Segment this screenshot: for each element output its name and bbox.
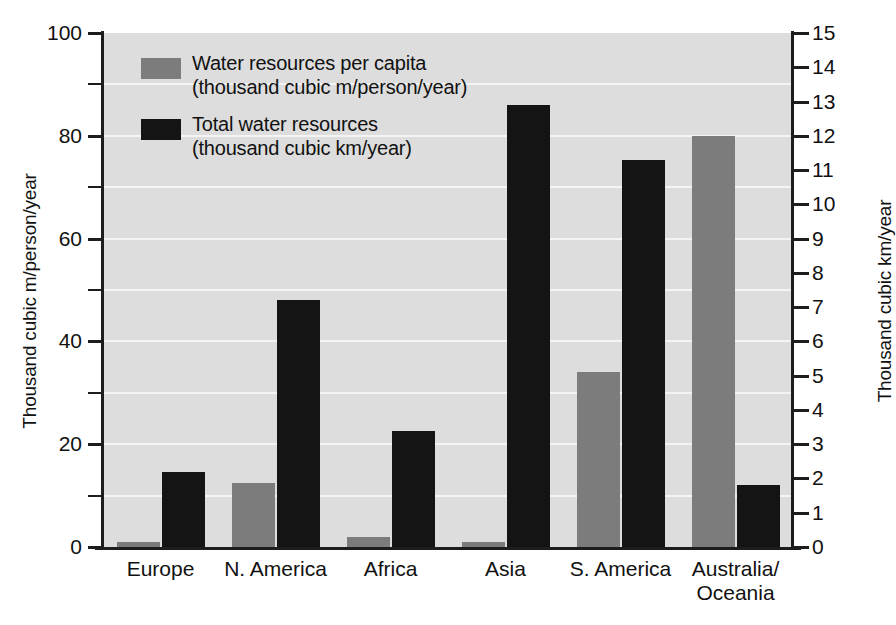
legend: Water resources per capita (thousand cub…: [141, 52, 561, 174]
gridline: [103, 443, 793, 445]
y-axis-left-tick: [88, 32, 103, 35]
y-axis-left-tick: [88, 238, 103, 241]
y-axis-right-tick-label: 0: [812, 536, 872, 557]
y-axis-left-tick: [88, 289, 101, 291]
y-axis-right-tick-label: 2: [812, 467, 872, 488]
y-axis-left-tick-label: 20: [0, 433, 82, 454]
y-axis-right-tick-label: 14: [812, 56, 872, 77]
y-axis-right-tick-label: 15: [812, 22, 872, 43]
y-axis-right-tick-label: 7: [812, 296, 872, 317]
y-axis-left-tick: [88, 495, 101, 497]
y-axis-left-tick: [88, 443, 103, 446]
bar: [347, 537, 390, 547]
gridline: [103, 495, 793, 497]
legend-item-total: Total water resources (thousand cubic km…: [141, 113, 561, 160]
y-axis-right-tick-label: 11: [812, 159, 872, 180]
y-axis-right-tick: [794, 340, 809, 343]
y-axis-left-tick: [88, 340, 103, 343]
gridline: [103, 238, 793, 240]
y-axis-right-tick: [794, 477, 809, 480]
y-axis-right-tick: [794, 409, 809, 412]
legend-label-total: Total water resources (thousand cubic km…: [192, 113, 412, 160]
y-axis-right-tick: [794, 546, 809, 549]
y-axis-left-tick-label: 0: [0, 536, 82, 557]
y-axis-left-tick-label: 100: [0, 22, 82, 43]
y-axis-left-line: [101, 31, 104, 549]
y-axis-right-tick-label: 6: [812, 330, 872, 351]
y-axis-left-tick: [88, 135, 103, 138]
legend-item-per-capita: Water resources per capita (thousand cub…: [141, 52, 561, 99]
x-axis-line: [95, 547, 801, 550]
y-axis-left-tick: [88, 83, 101, 85]
y-axis-right-tick: [794, 135, 809, 138]
legend-label-per-capita-line1: Water resources per capita: [192, 52, 426, 74]
y-axis-left-tick-label: 80: [0, 125, 82, 146]
legend-label-total-line1: Total water resources: [192, 113, 378, 135]
bar: [692, 136, 735, 547]
y-axis-left-tick-label: 60: [0, 228, 82, 249]
y-axis-right-tick-label: 13: [812, 91, 872, 112]
gridline: [103, 186, 793, 188]
y-axis-right-tick: [794, 512, 809, 515]
y-axis-right-tick-label: 10: [812, 193, 872, 214]
y-axis-right-tick: [794, 66, 809, 69]
y-axis-right-tick-label: 3: [812, 433, 872, 454]
y-axis-right-tick: [794, 101, 809, 104]
y-axis-right-tick: [794, 306, 809, 309]
x-axis-category-label: Australia/ Oceania: [666, 557, 805, 604]
legend-label-per-capita-line2: (thousand cubic m/person/year): [192, 76, 467, 100]
legend-swatch-black-icon: [141, 119, 181, 140]
y-axis-right-tick-label: 12: [812, 125, 872, 146]
bar: [232, 483, 275, 547]
y-axis-right-tick: [794, 32, 809, 35]
y-axis-left-tick: [88, 546, 103, 549]
y-axis-left-tick: [88, 392, 101, 394]
gridline: [103, 392, 793, 394]
y-axis-right-tick-label: 9: [812, 228, 872, 249]
bar: [737, 485, 780, 547]
y-axis-right-title: Thousand cubic km/year: [874, 66, 896, 536]
bar: [392, 431, 435, 548]
y-axis-left-tick-label: 40: [0, 330, 82, 351]
y-axis-right-line: [791, 31, 794, 549]
legend-label-total-line2: (thousand cubic km/year): [192, 137, 412, 161]
gridline: [103, 340, 793, 342]
bar: [577, 372, 620, 547]
bar: [277, 300, 320, 547]
bar: [622, 160, 665, 547]
y-axis-left-tick: [88, 186, 101, 188]
legend-swatch-gray-icon: [141, 58, 181, 79]
legend-label-per-capita: Water resources per capita (thousand cub…: [192, 52, 467, 99]
y-axis-right-tick-label: 8: [812, 262, 872, 283]
y-axis-right-tick-label: 1: [812, 502, 872, 523]
y-axis-right-tick-label: 4: [812, 399, 872, 420]
y-axis-right-tick: [794, 169, 809, 172]
y-axis-right-tick: [794, 203, 809, 206]
gridline: [103, 289, 793, 291]
y-axis-right-tick: [794, 443, 809, 446]
bar: [162, 472, 205, 547]
y-axis-right-tick: [794, 375, 809, 378]
y-axis-right-tick: [794, 272, 809, 275]
y-axis-right-tick-label: 5: [812, 365, 872, 386]
y-axis-right-tick: [794, 238, 809, 241]
